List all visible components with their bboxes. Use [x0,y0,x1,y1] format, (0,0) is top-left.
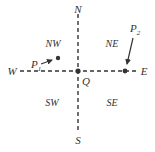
north-label: N [73,3,82,15]
quadrant-sw-label: SW [45,97,60,108]
east-label: E [140,65,148,77]
quadrant-ne-label: NE [105,38,119,49]
compass-diagram: N S W E NW NE SW SE Q P1 P2 [0,0,155,152]
point-p2-label: P2 [129,22,141,37]
quadrant-nw-label: NW [45,38,63,49]
origin-label: Q [82,75,90,87]
south-label: S [75,134,81,146]
quadrant-se-label: SE [106,97,117,108]
west-label: W [7,65,17,77]
p1-arrow [41,60,52,64]
p2-arrow [127,38,133,64]
point-p2 [123,69,128,74]
point-p1 [56,56,60,60]
origin-point [75,68,80,73]
